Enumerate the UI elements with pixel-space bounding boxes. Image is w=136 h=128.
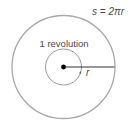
radius-label: r xyxy=(86,67,90,78)
revolution-diagram: r 1 revolution s = 2πr xyxy=(0,0,136,128)
formula-label: s = 2πr xyxy=(92,6,125,17)
inner-label: 1 revolution xyxy=(40,38,89,49)
center-dot xyxy=(61,65,66,70)
